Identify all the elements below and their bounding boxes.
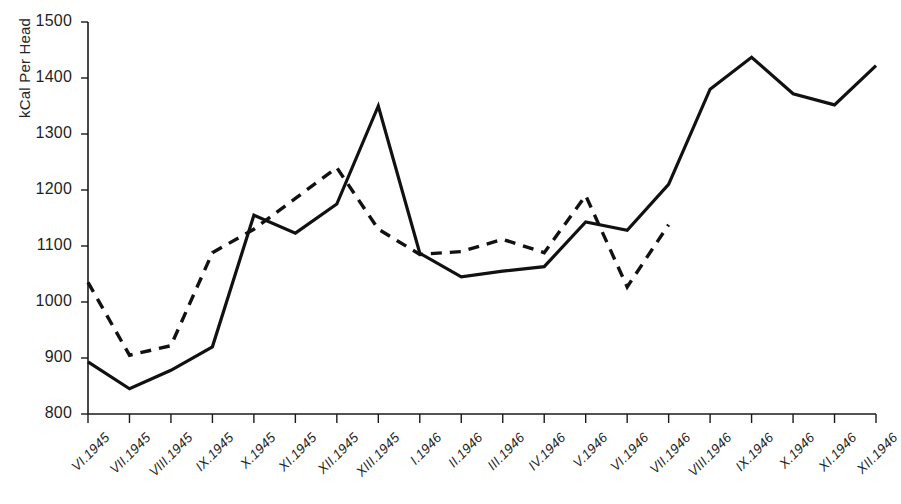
- axes-group: [81, 22, 876, 423]
- series-line-solid-series: [88, 57, 876, 389]
- series-group: [88, 57, 876, 389]
- series-line-dashed-series: [88, 168, 669, 356]
